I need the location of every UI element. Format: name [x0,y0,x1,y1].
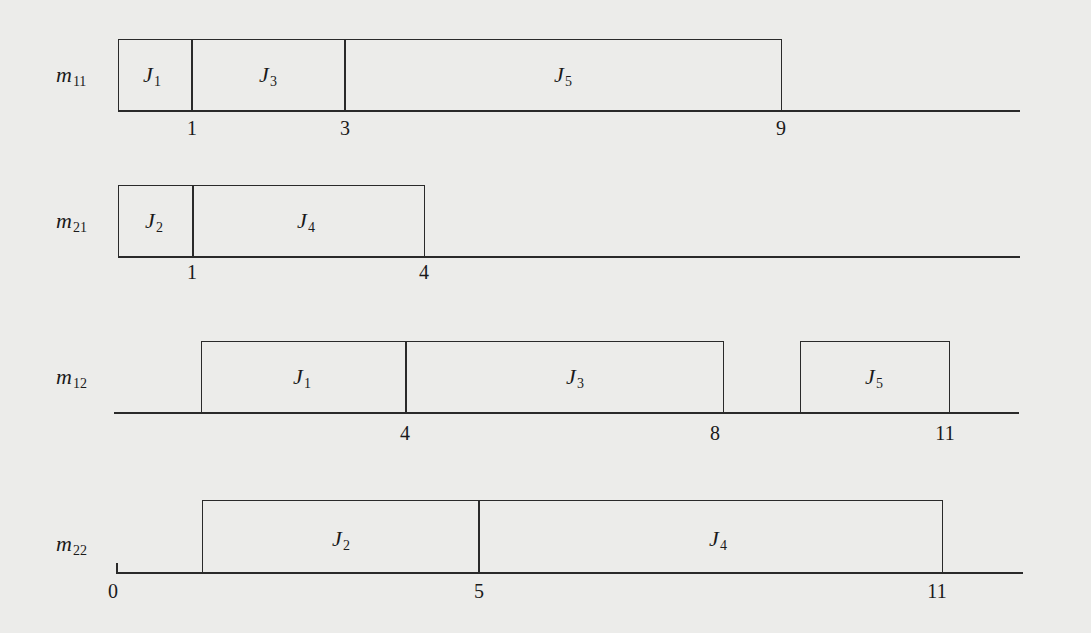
divider-t4 [405,341,407,413]
job-label-m22-j2: J2 [332,528,350,553]
tick-label-origin: 0 [108,581,118,601]
tick-label: 4 [400,423,410,443]
divider-t3 [344,39,346,111]
time-axis-m11 [118,110,1020,112]
machine-label-m11: m11 [56,64,86,89]
job-block-m11 [118,39,782,111]
divider-t1 [192,185,194,257]
job-label-m12-j3: J3 [566,366,584,391]
gantt-diagram: m11 J1 J3 J5 1 3 9 m21 J2 J4 1 4 m12 J1 … [0,0,1091,633]
machine-label-m22: m22 [56,533,87,558]
job-label-m11-j3: J3 [259,64,277,89]
job-block-m21 [118,185,425,257]
tick-label: 11 [927,581,946,601]
tick-label: 1 [187,262,197,282]
job-label-m11-j5: J5 [554,64,572,89]
tick-label: 5 [474,581,484,601]
tick-label: 4 [419,262,429,282]
machine-label-m21: m21 [56,210,87,235]
job-label-m12-j5: J5 [865,366,883,391]
time-axis-m12 [114,412,1019,414]
tick-label: 3 [340,118,350,138]
time-axis-m21 [118,256,1020,258]
time-axis-m22 [116,572,1023,574]
job-label-m21-j4: J4 [297,210,315,235]
job-block-m12-a [201,341,724,413]
job-label-m11-j1: J1 [143,64,161,89]
job-label-m12-j1: J1 [293,366,311,391]
divider-t1 [191,39,193,111]
divider-t5 [478,500,480,573]
tick-label: 8 [710,423,720,443]
tick-label: 11 [935,423,954,443]
job-label-m22-j4: J4 [709,528,727,553]
machine-label-m12: m12 [56,366,87,391]
tick-label: 1 [187,118,197,138]
job-block-m22 [202,500,943,573]
tick-label: 9 [776,118,786,138]
job-label-m21-j2: J2 [145,210,163,235]
